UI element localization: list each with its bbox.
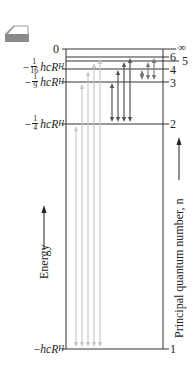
quantum-arrow-icon [177,137,182,145]
hcr-text: hcR [40,61,58,73]
arrowhead-up [80,84,84,89]
hcr-text: hcR [40,343,58,355]
arrowhead-down [80,342,84,347]
hcr-text: hcR [40,118,58,130]
fraction: 19 [32,73,38,90]
arrowhead-up [74,126,78,131]
energy-axis-label: Energy [38,245,50,279]
arrowhead-up [122,62,126,67]
arrowhead-down [74,342,78,347]
arrowhead-down [128,117,132,122]
arrowhead-up [146,62,150,67]
energy-label-zero: 0 [53,43,59,55]
energy-label-n2: − 14 hcRH [25,115,64,132]
arrowhead-up [116,70,120,75]
n-label-infinity: ∞ [178,41,186,53]
hcr-text: hcR [40,76,58,88]
arrowhead-down [116,117,120,122]
energy-arrow-icon [42,205,47,213]
subscript: H [58,343,64,355]
arrowhead-down [122,117,126,122]
sign: − [23,61,30,73]
subscript: H [58,118,64,130]
arrowhead-down [110,117,114,122]
energy-level-diagram [0,0,194,370]
arrowhead-up [86,71,90,76]
n-label-2: 2 [170,118,176,130]
n-label-4: 4 [170,64,176,76]
sign: − [25,76,32,88]
subscript: H [58,76,64,88]
arrowhead-down [92,342,96,347]
n-label-5: 5 [182,55,188,67]
arrowhead-up [110,83,114,88]
energy-label-n1: − hcRH [34,343,64,355]
n-label-6: 6 [170,51,176,63]
energy-label-n3: − 19 hcRH [25,73,64,90]
quantum-number-axis-label: Principal quantum number, n [173,199,185,339]
arrowhead-up [140,70,144,75]
fraction: 14 [32,115,38,132]
n-label-3: 3 [170,77,176,89]
arrowhead-down [98,342,102,347]
subscript: H [58,61,64,73]
sign: − [25,118,32,130]
n-label-1: 1 [170,343,176,355]
arrowhead-down [146,75,150,80]
arrowhead-down [86,342,90,347]
arrowhead-down [152,75,156,80]
arrowhead-up [92,63,96,68]
arrowhead-down [140,75,144,80]
